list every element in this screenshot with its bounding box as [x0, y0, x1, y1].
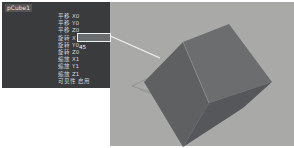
attr-scale-y[interactable]: 缩放Y1 — [58, 63, 90, 70]
callout-arrow — [108, 35, 160, 58]
attr-visibility[interactable]: 可见性启用 — [58, 78, 90, 85]
channel-box: pCube1 平移X0 平移Y0 平移Z0 旋转X 旋转Y0 旋转Z0 缩放X1… — [2, 2, 110, 88]
attr-scale-z[interactable]: 缩放Z1 — [58, 71, 90, 78]
object-name[interactable]: pCube1 — [5, 4, 32, 12]
rotate-x-value-field[interactable]: 45 — [77, 33, 111, 42]
